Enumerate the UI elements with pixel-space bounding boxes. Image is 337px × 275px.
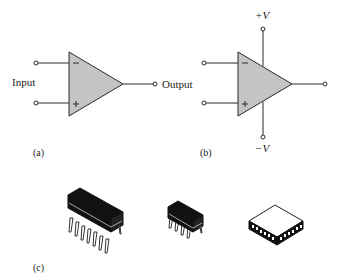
- chip-carrier: [249, 205, 303, 245]
- input-label: Input: [12, 77, 35, 88]
- opamp-a: [34, 52, 157, 116]
- opamp-b: [202, 27, 327, 139]
- diagram-canvas: [0, 0, 337, 275]
- caption-c: (c): [33, 263, 44, 273]
- chip-dip8: [168, 201, 203, 238]
- negative-supply-label: −V: [255, 143, 269, 154]
- output-label: Output: [162, 79, 193, 90]
- positive-supply-label: +V: [255, 10, 269, 21]
- chip-dip14: [68, 188, 123, 253]
- caption-b: (b): [200, 148, 212, 158]
- caption-a: (a): [33, 148, 44, 158]
